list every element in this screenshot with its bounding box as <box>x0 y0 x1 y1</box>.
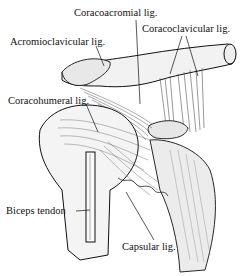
label-coracoacromial-ligament: Coracoacromial lig. <box>74 7 157 19</box>
label-coracohumeral-ligament: Coracohumeral lig. <box>8 95 89 107</box>
label-capsular-ligament: Capsular lig. <box>122 241 176 253</box>
anatomy-diagram: Coracoacromial lig. Coracoclavicular lig… <box>0 0 242 276</box>
label-acromioclavicular-ligament: Acromioclavicular lig. <box>10 36 105 48</box>
label-biceps-tendon: Biceps tendon <box>6 205 66 217</box>
label-coracoclavicular-ligament: Coracoclavicular lig. <box>142 23 230 35</box>
